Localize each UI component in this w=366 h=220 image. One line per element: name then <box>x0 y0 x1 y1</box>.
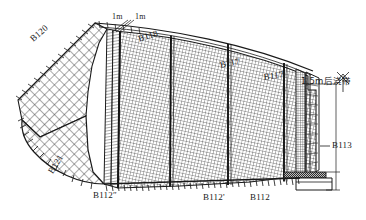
bottom-right-ledge <box>284 172 332 190</box>
label-dim-1m-right: 1m <box>135 12 146 21</box>
label-dim-1m-left: 1m <box>112 12 123 21</box>
zone-b118-region <box>118 32 316 189</box>
label-b113: B113 <box>332 140 352 150</box>
label-b112-dprime: B112″ <box>93 190 117 200</box>
label-b112-prime: B112' <box>203 192 225 202</box>
right-dim-extensions <box>326 80 340 190</box>
drawing-canvas: B120 B121 B118 B117 B117' B112″ B112' B1… <box>0 0 366 220</box>
structural-plan-svg <box>0 0 366 220</box>
label-b112: B112 <box>250 192 270 202</box>
label-post-cast-strip: 1.5m后浇带 <box>301 74 351 86</box>
